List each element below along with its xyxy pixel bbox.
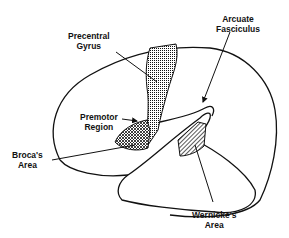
precentral-gyrus-region <box>146 44 177 145</box>
label-line: Area <box>12 160 43 170</box>
label-line: Gyrus <box>68 41 110 51</box>
wernickes-area-label: Wernicke's Area <box>192 210 236 230</box>
label-line: Wernicke's <box>192 210 236 220</box>
precentral-gyrus-label: Precentral Gyrus <box>68 31 110 51</box>
premotor-region-label: Premotor Region <box>80 112 118 132</box>
brain-outline-drawing <box>0 0 289 238</box>
label-line: Fasciculus <box>216 24 260 34</box>
label-line: Area <box>192 220 236 230</box>
label-line: Broca's <box>12 150 43 160</box>
premotor-region-leader <box>122 119 137 121</box>
arcuate-fasciculus-label: Arcuate Fasciculus <box>216 14 260 34</box>
label-line: Region <box>80 122 118 132</box>
label-line: Arcuate <box>216 14 260 24</box>
wernickes-area-region <box>178 122 206 156</box>
brocas-area-leader <box>52 145 135 160</box>
brain-diagram: Precentral Gyrus Arcuate Fasciculus Prem… <box>0 0 289 238</box>
wernickes-area-leader <box>195 145 213 202</box>
arcuate-fasciculus-leader <box>203 32 230 102</box>
label-line: Precentral <box>68 31 110 41</box>
brocas-area-label: Broca's Area <box>12 150 43 170</box>
label-line: Premotor <box>80 112 118 122</box>
